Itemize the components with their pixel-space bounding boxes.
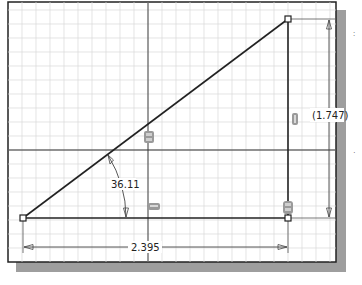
sketch-drawing[interactable]: (1.747) 2.395 36.11	[0, 0, 362, 285]
frame-shadow	[16, 262, 346, 272]
side-mark-middle: ·	[353, 148, 356, 157]
vertical-dim-label[interactable]: (1.747)	[312, 110, 349, 121]
perpendicular-constraint-icon[interactable]	[283, 201, 293, 214]
angle-dim-label[interactable]: 36.11	[111, 179, 140, 190]
frame-shadow-right	[336, 10, 346, 272]
sketch-canvas[interactable]: (1.747) 2.395 36.11	[0, 0, 362, 285]
side-mark-top: :	[353, 29, 355, 38]
vertical-constraint-icon[interactable]	[292, 113, 298, 125]
vertex-bottom-right[interactable]	[285, 215, 291, 221]
sketch-frame	[8, 2, 336, 262]
vertex-top-right[interactable]	[285, 16, 291, 22]
horizontal-dim-label[interactable]: 2.395	[131, 242, 160, 253]
vertex-bottom-left[interactable]	[20, 215, 26, 221]
horizontal-constraint-icon[interactable]	[148, 203, 160, 210]
coincident-constraint-icon[interactable]	[144, 131, 154, 143]
